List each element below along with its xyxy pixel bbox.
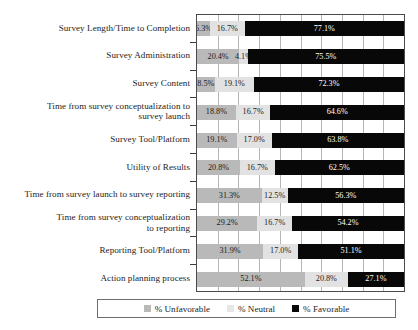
bar-value-label: 16.7% (243, 108, 264, 116)
bar-value-label: 17.0% (244, 136, 265, 144)
category-label-line: Survey Length/Time to Completion (0, 23, 190, 34)
category-label: Time from survey conceptualizationto rep… (0, 212, 190, 233)
bar-value-label: 52.1% (240, 275, 261, 283)
bar-segment-neutral: 4.1% (239, 49, 247, 64)
bar-value-label: 72.3% (318, 80, 339, 88)
bar-segment-neutral: 17.0% (237, 133, 272, 148)
bar-value-label: 51.1% (341, 247, 362, 255)
bar-value-label: 20.4% (208, 53, 229, 61)
category-label-line: Utility of Results (0, 162, 190, 173)
legend-label-neutral: % Neutral (238, 304, 275, 314)
bar-segment-favorable: 51.1% (298, 244, 404, 259)
bar-segment-neutral: 16.7% (257, 216, 292, 231)
bar-segment-neutral: 17.0% (263, 244, 298, 259)
bar-segment-neutral: 20.8% (305, 272, 348, 287)
plot-wrapper: Survey Length/Time to CompletionSurvey A… (0, 14, 418, 292)
bar-value-label: 27.1% (365, 275, 386, 283)
category-label-line: Time from survey conceptualization to (0, 101, 190, 112)
bar-value-label: 12.5% (264, 192, 285, 200)
bar-segment-favorable: 64.6% (270, 105, 404, 120)
bar-segment-unfavorable: 31.9% (197, 244, 263, 259)
category-label-line: survey launch (0, 111, 190, 122)
bar-row: 6.3%16.7%77.1% (197, 21, 404, 36)
bar-segment-unfavorable: 29.2% (197, 216, 257, 231)
bar-segment-favorable: 54.2% (292, 216, 404, 231)
bar-segment-favorable: 62.5% (275, 160, 404, 175)
legend-label-favorable: % Favorable (303, 304, 349, 314)
category-label: Time from survey conceptualization tosur… (0, 101, 190, 122)
bar-segment-favorable: 72.3% (254, 77, 404, 92)
bar-value-label: 29.2% (217, 219, 238, 227)
stacked-bar-chart: Survey Length/Time to CompletionSurvey A… (0, 0, 418, 330)
bar-segment-unfavorable: 6.3% (197, 21, 210, 36)
legend-item-unfavorable: % Unfavorable (144, 304, 210, 314)
bar-row: 31.3%12.5%56.3% (197, 188, 404, 203)
legend-item-favorable: % Favorable (292, 304, 349, 314)
bar-row: 20.8%16.7%62.5% (197, 160, 404, 175)
category-label-line: Survey Content (0, 78, 190, 89)
legend-item-neutral: % Neutral (227, 304, 275, 314)
bar-segment-favorable: 27.1% (348, 272, 404, 287)
bar-segment-neutral: 19.1% (215, 77, 255, 92)
bar-value-label: 19.1% (206, 136, 227, 144)
bar-segment-unfavorable: 19.1% (197, 133, 237, 148)
category-label: Action planning process (0, 273, 190, 284)
bar-value-label: 16.7% (247, 164, 268, 172)
category-label: Utility of Results (0, 162, 190, 173)
bar-row: 31.9%17.0%51.1% (197, 244, 404, 259)
bar-segment-unfavorable: 52.1% (197, 272, 305, 287)
category-label-line: Time from survey launch to survey report… (0, 189, 190, 200)
bar-value-label: 19.1% (224, 80, 245, 88)
bar-value-label: 17.0% (270, 247, 291, 255)
bar-segment-favorable: 63.8% (272, 133, 404, 148)
bar-row: 52.1%20.8%27.1% (197, 272, 404, 287)
bar-segment-favorable: 56.3% (288, 188, 404, 203)
category-label: Survey Tool/Platform (0, 134, 190, 145)
bar-value-label: 56.3% (335, 192, 356, 200)
bar-value-label: 64.6% (327, 108, 348, 116)
category-label: Time from survey launch to survey report… (0, 189, 190, 200)
bar-value-label: 20.8% (208, 164, 229, 172)
plot-area: 6.3%16.7%77.1%20.4%4.1%75.5%8.5%19.1%72.… (196, 14, 405, 292)
bar-segment-unfavorable: 18.8% (197, 105, 236, 120)
bar-value-label: 16.7% (264, 219, 285, 227)
bar-value-label: 31.3% (219, 192, 240, 200)
category-label-line: Survey Administration (0, 50, 190, 61)
category-label-line: Action planning process (0, 273, 190, 284)
category-label-line: Reporting Tool/Platform (0, 245, 190, 256)
bar-row: 19.1%17.0%63.8% (197, 133, 404, 148)
bar-value-label: 75.5% (315, 53, 336, 61)
bar-value-label: 8.5% (197, 80, 214, 88)
chart-legend: % Unfavorable % Neutral % Favorable (97, 299, 396, 318)
bar-segment-unfavorable: 8.5% (197, 77, 215, 92)
bar-segment-neutral: 12.5% (262, 188, 288, 203)
bar-segment-neutral: 16.7% (240, 160, 275, 175)
bar-segment-neutral: 16.7% (210, 21, 245, 36)
bar-value-label: 20.8% (316, 275, 337, 283)
bar-value-label: 77.1% (314, 25, 335, 33)
bar-value-label: 54.2% (337, 219, 358, 227)
bar-segment-favorable: 75.5% (248, 49, 404, 64)
category-label: Survey Length/Time to Completion (0, 23, 190, 34)
bar-value-label: 18.8% (206, 108, 227, 116)
bar-value-label: 62.5% (329, 164, 350, 172)
bar-row: 8.5%19.1%72.3% (197, 77, 404, 92)
bar-segment-neutral: 16.7% (236, 105, 271, 120)
category-label-line: to reporting (0, 223, 190, 234)
bar-row: 20.4%4.1%75.5% (197, 49, 404, 64)
category-label: Survey Administration (0, 50, 190, 61)
bar-segment-favorable: 77.1% (245, 21, 404, 36)
bar-value-label: 16.7% (217, 25, 238, 33)
category-label: Reporting Tool/Platform (0, 245, 190, 256)
legend-swatch-favorable-icon (292, 305, 299, 312)
bar-value-label: 63.8% (327, 136, 348, 144)
bar-row: 18.8%16.7%64.6% (197, 105, 404, 120)
legend-swatch-unfavorable-icon (144, 305, 151, 312)
bar-value-label: 31.9% (219, 247, 240, 255)
category-label: Survey Content (0, 78, 190, 89)
bar-segment-unfavorable: 31.3% (197, 188, 262, 203)
bar-segment-unfavorable: 20.8% (197, 160, 240, 175)
category-label-line: Time from survey conceptualization (0, 212, 190, 223)
bar-segment-unfavorable: 20.4% (197, 49, 239, 64)
category-label-line: Survey Tool/Platform (0, 134, 190, 145)
